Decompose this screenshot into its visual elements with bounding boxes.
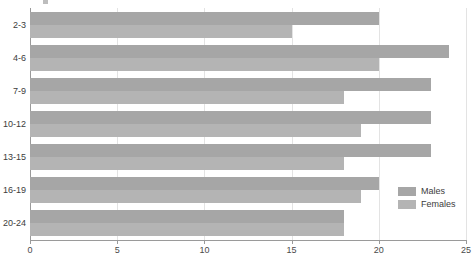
x-axis-tick-label: 20 (374, 245, 384, 255)
y-axis-category-labels: 2-34-67-910-1213-1516-1920-24 (0, 0, 26, 259)
bar-chart: 2-34-67-910-1213-1516-1920-24 Males Fema… (0, 0, 474, 259)
x-axis-tick-label: 0 (27, 245, 32, 255)
x-axis-tick (379, 240, 380, 244)
x-axis-tick (466, 240, 467, 244)
x-axis-tick-label: 5 (115, 245, 120, 255)
bar-females-10-12 (30, 124, 361, 137)
x-axis-tick-label: 10 (199, 245, 209, 255)
y-axis-category-label: 2-3 (13, 20, 26, 30)
legend-item-females: Females (398, 198, 456, 210)
x-axis-line (30, 240, 467, 241)
x-axis-tick (117, 240, 118, 244)
bar-females-13-15 (30, 157, 344, 170)
x-axis-tick (204, 240, 205, 244)
bar-males-13-15 (30, 144, 431, 157)
y-axis-category-label: 10-12 (3, 119, 26, 129)
bar-males-4-6 (30, 45, 449, 58)
bar-females-20-24 (30, 223, 344, 236)
chart-legend: Males Females (398, 185, 456, 211)
legend-label-males: Males (421, 186, 445, 196)
legend-item-males: Males (398, 185, 456, 197)
bar-females-16-19 (30, 190, 361, 203)
bar-males-10-12 (30, 111, 431, 124)
x-axis-tick (292, 240, 293, 244)
bar-males-7-9 (30, 78, 431, 91)
y-axis-category-label: 13-15 (3, 152, 26, 162)
crop-mark (43, 0, 48, 4)
bar-females-4-6 (30, 58, 379, 71)
bar-males-20-24 (30, 210, 344, 223)
gridline (379, 8, 380, 240)
gridline (466, 8, 467, 240)
x-axis-tick-label: 15 (287, 245, 297, 255)
bar-males-16-19 (30, 177, 379, 190)
bar-males-2-3 (30, 12, 379, 25)
x-axis-tick (30, 240, 31, 244)
y-axis-category-label: 16-19 (3, 185, 26, 195)
legend-swatch-males-icon (398, 187, 416, 196)
y-axis-category-label: 20-24 (3, 218, 26, 228)
bar-females-7-9 (30, 91, 344, 104)
x-axis-tick-label: 25 (461, 245, 471, 255)
y-axis-category-label: 4-6 (13, 53, 26, 63)
y-axis-category-label: 7-9 (13, 86, 26, 96)
bar-females-2-3 (30, 25, 292, 38)
legend-swatch-females-icon (398, 200, 416, 209)
legend-label-females: Females (421, 199, 456, 209)
